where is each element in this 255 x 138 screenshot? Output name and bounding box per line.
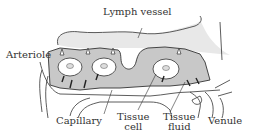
label-tissue-fluid: Tissue fluid bbox=[163, 112, 196, 132]
label-tissue-fluid-line2: fluid bbox=[163, 122, 196, 132]
label-venule: Venule bbox=[208, 116, 242, 126]
label-lymph-vessel: Lymph vessel bbox=[103, 7, 172, 17]
label-capillary: Capillary bbox=[56, 116, 102, 126]
label-arteriole: Arteriole bbox=[6, 50, 51, 60]
label-tissue-cell-line2: cell bbox=[117, 122, 150, 132]
label-tissue-cell: Tissue cell bbox=[117, 112, 150, 132]
venule bbox=[190, 80, 232, 118]
